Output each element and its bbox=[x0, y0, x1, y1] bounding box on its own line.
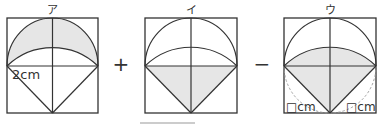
figure-i: イ bbox=[145, 4, 237, 113]
figure-i-label: イ bbox=[186, 4, 197, 17]
figure-a: ア 2cm bbox=[7, 4, 98, 113]
figure-u-label: ウ bbox=[325, 4, 336, 17]
figure-equation-diagram: ア 2cm + イ − ウ □cm □cm bbox=[0, 0, 380, 126]
figure-a-right-diagonal bbox=[53, 66, 99, 113]
figure-u-left-length-label: □cm bbox=[286, 100, 316, 114]
plus-operator: + bbox=[113, 52, 130, 76]
figure-a-label: ア bbox=[47, 4, 58, 17]
figure-u-right-length-label: □cm bbox=[346, 100, 376, 114]
figure-u: ウ □cm □cm bbox=[284, 4, 376, 114]
minus-operator: − bbox=[254, 52, 271, 76]
figure-a-length-label: 2cm bbox=[12, 67, 40, 82]
